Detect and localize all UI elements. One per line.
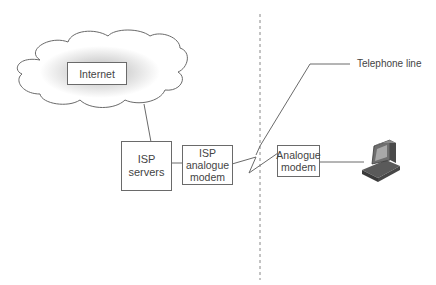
isp-analogue-modem-box: ISP analogue modem xyxy=(182,145,233,185)
telephone-line-callout xyxy=(256,64,350,155)
computer-icon xyxy=(362,140,400,182)
telephone-line-zigzag xyxy=(232,153,278,173)
telephone-line-label: Telephone line xyxy=(357,58,422,69)
link-internet-isp xyxy=(144,104,151,142)
isp-modem-line2: analogue xyxy=(186,159,229,171)
isp-servers-line1: ISP xyxy=(138,153,156,166)
isp-modem-line1: ISP xyxy=(199,147,216,159)
internet-label: Internet xyxy=(79,68,115,80)
diagram-canvas xyxy=(0,0,436,285)
internet-box: Internet xyxy=(67,62,127,85)
isp-servers-line2: servers xyxy=(128,166,164,179)
analogue-modem-line2: modem xyxy=(281,161,316,173)
analogue-modem-line1: Analogue xyxy=(276,149,320,161)
analogue-modem-box: Analogue modem xyxy=(277,145,320,177)
isp-modem-line3: modem xyxy=(190,171,225,183)
isp-servers-box: ISP servers xyxy=(121,141,172,191)
